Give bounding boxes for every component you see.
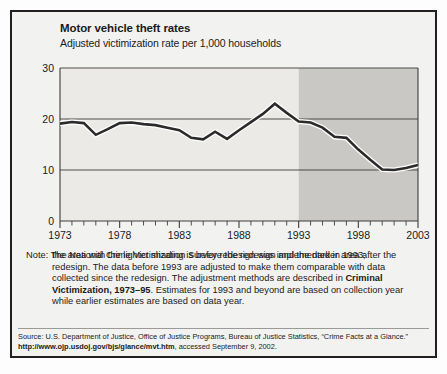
x-axis-tick-label: 2003 bbox=[406, 229, 430, 241]
shaded-region-after-redesign bbox=[299, 68, 418, 221]
note-label: Note: bbox=[26, 250, 48, 260]
note-block: Note: The National Crime Victimization S… bbox=[26, 250, 421, 308]
y-axis-tick-label: 0 bbox=[48, 215, 54, 227]
x-axis-tick-label: 1998 bbox=[347, 229, 371, 241]
note-line-2: the area with the lighter shading is bef… bbox=[52, 250, 360, 260]
note-body: the area with the lighter shading is bef… bbox=[26, 250, 421, 308]
source-url-link[interactable]: http://www.ojp.usdoj.gov/bjs/glance/mvt.… bbox=[18, 342, 175, 351]
x-axis-tick-label: 1993 bbox=[287, 229, 311, 241]
shaded-region-before-redesign bbox=[60, 68, 299, 221]
source-line-1: Source: U.S. Department of Justice, Offi… bbox=[18, 332, 408, 341]
figure-page: Motor vehicle theft rates Adjusted victi… bbox=[0, 0, 447, 374]
line-chart-svg: 01020301973197819831988199319982003 bbox=[0, 0, 447, 250]
x-axis-tick-label: 1988 bbox=[227, 229, 251, 241]
x-axis-tick-label: 1978 bbox=[108, 229, 132, 241]
y-axis-tick-label: 20 bbox=[42, 113, 54, 125]
source-accessed: , accessed September 9, 2002. bbox=[175, 342, 277, 351]
x-axis-tick-label: 1973 bbox=[48, 229, 72, 241]
source-divider bbox=[18, 328, 429, 329]
note-line-5-post: . Estimates for 1993 and beyond are base… bbox=[151, 285, 329, 295]
y-axis-tick-label: 30 bbox=[42, 62, 54, 74]
chart-plot-area: 01020301973197819831988199319982003 bbox=[0, 0, 447, 250]
y-axis-tick-label: 10 bbox=[42, 164, 54, 176]
note-line-5-pre: in bbox=[336, 273, 346, 283]
source-block: Source: U.S. Department of Justice, Offi… bbox=[18, 332, 430, 351]
x-axis-tick-label: 1983 bbox=[168, 229, 192, 241]
